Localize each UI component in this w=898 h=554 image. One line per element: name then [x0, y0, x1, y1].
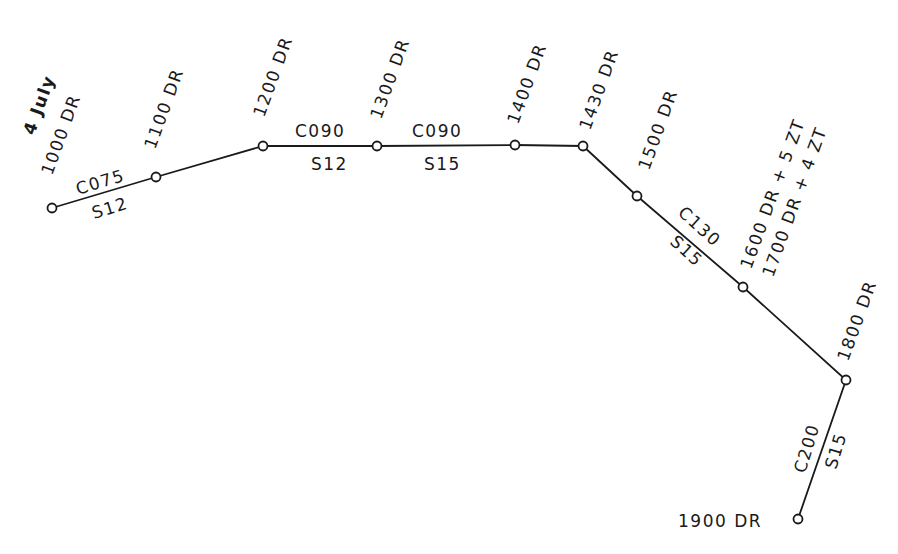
position-marker-1200 [259, 142, 268, 151]
time-label-1800: 1800 DR [833, 278, 881, 364]
position-marker-1300 [373, 142, 382, 151]
position-marker-1000 [48, 204, 57, 213]
dr-track-line [52, 145, 846, 519]
position-marker-1500 [633, 192, 642, 201]
position-marker-1400 [511, 141, 520, 150]
leg-5-speed: S15 [821, 430, 851, 471]
time-label-1300: 1300 DR [366, 36, 414, 122]
dr-plot: 4 July 1000 DR 1100 DR 1200 DR 1300 DR 1… [0, 0, 898, 554]
leg-2-speed: S12 [311, 154, 348, 174]
position-marker-1800 [842, 376, 851, 385]
time-label-1430: 1430 DR [575, 47, 623, 133]
time-label-1200: 1200 DR [249, 34, 297, 120]
leg-2-course: C090 [295, 121, 345, 141]
leg-3-course: C090 [412, 121, 462, 141]
leg-3-speed: S15 [424, 154, 461, 174]
position-marker-1900 [794, 515, 803, 524]
leg-5-course: C200 [790, 421, 824, 475]
time-label-1100: 1100 DR [140, 66, 188, 152]
time-label-1500: 1500 DR [634, 87, 682, 173]
position-marker-1430 [579, 142, 588, 151]
time-label-1900: 1900 DR [678, 511, 762, 531]
time-label-1400: 1400 DR [503, 41, 551, 127]
position-marker-1600 [739, 283, 748, 292]
leg-1-speed: S12 [89, 193, 130, 223]
position-marker-1100 [152, 173, 161, 182]
